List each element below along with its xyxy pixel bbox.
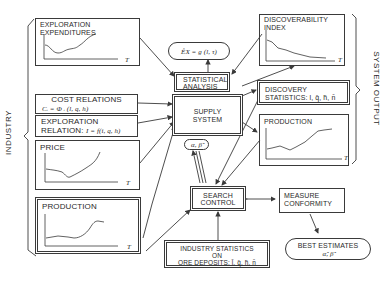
time-axis-label: T <box>344 154 348 162</box>
search-control-box: SEARCH CONTROL <box>190 186 246 211</box>
time-axis-label: T <box>125 56 129 64</box>
ex-formula-text: ÊX = g (l, τ) <box>169 48 229 56</box>
alpha-beta-text: α, β̂ <box>185 141 208 149</box>
exploration-relation-title-1: EXPLORATION <box>41 118 98 126</box>
time-axis-label: T <box>338 56 342 64</box>
best-estimates-line1: BEST ESTIMATES <box>286 242 370 250</box>
production-right-title: PRODUCTION <box>264 118 312 126</box>
arrow-discoverability-to-statistical <box>232 34 262 74</box>
industry-statistics-box: INDUSTRY STATISTICS ON ORE DEPOSITS: l̄,… <box>164 240 270 268</box>
arrow-expl-exp-to-statistical <box>140 38 174 76</box>
supply-system-line1: SUPPLY <box>175 108 240 116</box>
cost-relations-box: COST RELATIONS Cᵢ = Φ ᵢ (l, q, h) <box>35 94 138 114</box>
arrow-price-to-supply <box>140 122 174 163</box>
statistical-analysis-line2: ANALYSIS <box>183 83 218 91</box>
industry-label: INDUSTRY <box>4 110 13 155</box>
ex-formula-pill: ÊX = g (l, τ) <box>168 42 230 60</box>
measure-conformity-line2: CONFORMITY <box>284 200 332 208</box>
search-control-line2: CONTROL <box>193 199 243 207</box>
production-left-box: PRODUCTION T <box>35 197 141 254</box>
arrow-supply-to-discovery <box>242 90 256 96</box>
cost-relations-title: COST RELATIONS <box>36 96 137 104</box>
arrow-exprel-to-supply <box>138 117 172 123</box>
discoverability-title-2: INDEX <box>264 24 286 32</box>
production-left-title: PRODUCTION <box>42 203 97 211</box>
arrow-cost-to-supply <box>138 103 172 104</box>
price-title: PRICE <box>40 144 65 152</box>
exploration-expenditures-box: EXPLORATION EXPENDITURES T <box>35 18 140 66</box>
exploration-relation-formula: I = f(i, q, h) <box>86 127 121 135</box>
system-output-bracket <box>352 14 360 164</box>
exploration-expenditures-title-2: EXPENDITURES <box>40 29 96 37</box>
production-right-box: PRODUCTION T <box>259 114 349 166</box>
arrow-search-to-alpha-beta-1 <box>193 151 200 183</box>
exploration-relation-title-2: RELATION: <box>41 127 84 135</box>
supply-system-box: SUPPLY SYSTEM <box>172 94 243 136</box>
arrow-production-to-supply <box>143 126 175 238</box>
alpha-beta-pill: α, β̂ <box>184 139 209 150</box>
measure-conformity-line1: MEASURE <box>284 192 319 200</box>
time-axis-label: T <box>127 243 131 251</box>
cost-relations-formula: Cᵢ = Φ ᵢ (l, q, h) <box>42 105 88 113</box>
discoverability-index-box: DISCOVERABILITY INDEX T <box>259 14 345 66</box>
price-box: PRICE T <box>35 140 140 190</box>
exploration-expenditures-title-1: EXPLORATION <box>40 21 90 29</box>
system-output-label: SYSTEM OUTPUT <box>372 51 381 126</box>
discovery-statistics-title-1: DISCOVERY <box>265 86 307 94</box>
discovery-statistics-box: DISCOVERY STATISTICS: l, q̄, h̄, n̄ <box>257 80 350 105</box>
arrow-production-right-to-search <box>222 140 260 185</box>
industry-statistics-line3: ORE DEPOSITS: l̄, q̄, h̄, n̄ <box>167 259 267 267</box>
measure-conformity-box: MEASURE CONFORMITY <box>279 188 345 213</box>
discoverability-title-1: DISCOVERABILITY <box>264 16 328 24</box>
arrow-measure-to-best <box>310 214 318 233</box>
discovery-statistics-title-2: STATISTICS: l, q̄, h̄, n̄ <box>265 94 335 102</box>
statistical-analysis-box: STATISTICAL ANALYSIS <box>174 72 230 92</box>
time-axis-label: T <box>126 179 130 187</box>
best-estimates-pill: BEST ESTIMATES α̂, β̂ <box>285 238 371 260</box>
supply-system-line2: SYSTEM <box>175 116 240 124</box>
exploration-relation-box: EXPLORATION RELATION: I = f(i, q, h) <box>35 115 138 137</box>
best-estimates-line2: α̂, β̂ <box>286 250 370 258</box>
